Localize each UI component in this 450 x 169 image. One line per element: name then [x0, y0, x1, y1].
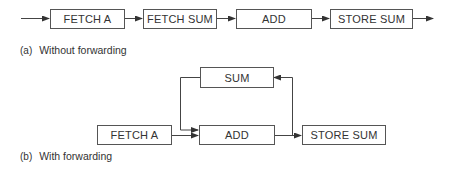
- box-label: ADD: [225, 129, 249, 141]
- box-b-sum: SUM: [200, 67, 274, 88]
- box-label: STORE SUM: [311, 129, 378, 141]
- caption-b: (b) With forwarding: [20, 150, 112, 162]
- box-a-fetch-a: FETCH A: [50, 9, 125, 29]
- caption-a: (a) Without forwarding: [20, 44, 127, 56]
- box-a-store-sum: STORE SUM: [330, 9, 413, 29]
- caption-text: With forwarding: [39, 150, 112, 162]
- box-b-fetch-a: FETCH A: [97, 125, 172, 145]
- box-a-add: ADD: [236, 9, 312, 29]
- box-label: FETCH A: [111, 129, 159, 141]
- box-a-fetch-sum: FETCH SUM: [143, 9, 217, 29]
- box-label: STORE SUM: [338, 13, 405, 25]
- box-b-add: ADD: [199, 125, 275, 145]
- caption-tag: (b): [20, 151, 32, 162]
- box-label: ADD: [262, 13, 286, 25]
- caption-text: Without forwarding: [39, 44, 127, 56]
- box-label: SUM: [224, 72, 249, 84]
- box-label: FETCH A: [64, 13, 112, 25]
- arrow-sum-to-add: [181, 78, 201, 131]
- box-b-store-sum: STORE SUM: [302, 125, 386, 145]
- box-label: FETCH SUM: [147, 13, 213, 25]
- caption-tag: (a): [20, 45, 32, 56]
- arrow-add-to-sum: [274, 78, 293, 136]
